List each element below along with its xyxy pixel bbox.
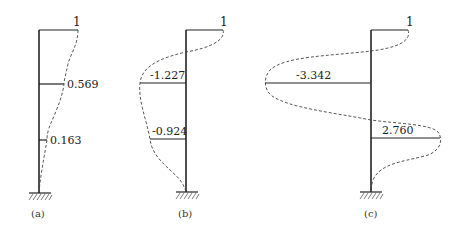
value-label-b-1: -1.227 <box>150 69 185 82</box>
panel-a: 1 0.569 0.163 (a) <box>29 15 99 219</box>
top-value-a: 1 <box>73 15 81 29</box>
panel-b: 1 -1.227 -0.924 (b) <box>140 15 228 219</box>
value-label-c-2: 2.760 <box>382 124 414 137</box>
caption-b: (b) <box>178 208 192 219</box>
top-value-b: 1 <box>220 15 228 29</box>
mode-curve-c <box>265 30 440 192</box>
fixed-support-c <box>360 192 383 199</box>
caption-c: (c) <box>364 208 378 219</box>
fixed-support-b <box>176 192 199 199</box>
caption-a: (a) <box>31 208 45 219</box>
panel-c: 1 -3.342 2.760 (c) <box>265 15 441 219</box>
fixed-support-a <box>29 193 52 200</box>
value-label-b-2: -0.924 <box>152 125 187 138</box>
value-label-a-2: 0.163 <box>50 134 82 147</box>
value-label-a-1: 0.569 <box>67 78 99 91</box>
value-label-c-1: -3.342 <box>296 69 331 82</box>
top-value-c: 1 <box>406 15 414 29</box>
mode-shape-diagram: 1 0.569 0.163 (a) 1 -1.227 -0.924 (b) <box>0 0 452 231</box>
mode-curve-a <box>39 30 78 193</box>
mode-curve-b <box>140 30 224 192</box>
